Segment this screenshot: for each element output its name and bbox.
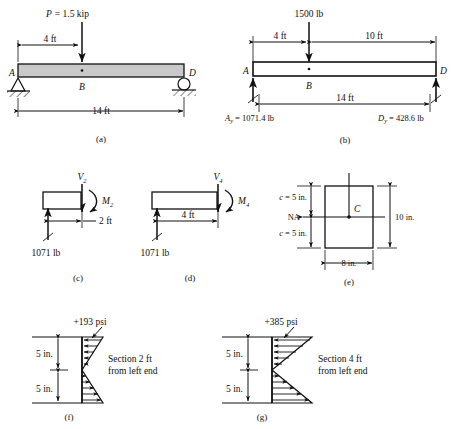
- panel-e-na-label: NA: [288, 212, 301, 222]
- figure-root: P= 1.5 kip 4 ft A B D 14 ft (a) 1500 lb: [0, 0, 453, 429]
- panel-b-dim4-label: 4 ft: [274, 31, 287, 41]
- panel-a-load-label: P= 1.5 kip: [45, 9, 89, 19]
- panel-c-shear-label: V2: [77, 172, 87, 184]
- panel-d-reaction-label: 1071 lb: [141, 248, 170, 258]
- panel-b-point-b-dot: [308, 68, 311, 71]
- panel-a-label-B: B: [79, 82, 85, 92]
- panel-g-section-caption-line2: from left end: [318, 366, 368, 376]
- panel-c-dim-label: 2 ft: [99, 216, 112, 226]
- panel-b-dim10-label: 10 ft: [365, 31, 383, 41]
- panel-a-label-D: D: [188, 68, 196, 78]
- panel-g-caption: (g): [257, 412, 268, 422]
- panel-f-bottom-stress-triangle: [82, 370, 103, 403]
- panel-a-caption: (a): [96, 134, 106, 144]
- panel-g: +385 psi 5 in. 5 in. Section 4 ft from l…: [222, 317, 368, 422]
- panel-c-moment-label: M2: [101, 196, 114, 208]
- panel-b-caption: (b): [340, 135, 351, 145]
- panel-c-caption: (c): [73, 273, 83, 283]
- panel-d-moment-arc: [225, 190, 233, 212]
- panel-g-section-caption-line1: Section 4 ft: [318, 354, 362, 364]
- panel-c-moment-arc: [89, 190, 97, 212]
- panel-a-label-A: A: [8, 68, 15, 78]
- panel-a-roller-support: [178, 78, 190, 90]
- panel-f-caption: (f): [65, 412, 74, 422]
- panel-b-reaction-d-label: Dy= 428.6 lb: [377, 113, 424, 124]
- panel-e-width-label: 8 in.: [341, 258, 356, 268]
- panel-g-dim-top-label: 5 in.: [226, 349, 243, 359]
- panel-e-centroid-label: C: [354, 204, 361, 214]
- panel-b-label-B: B: [306, 81, 312, 91]
- panel-d: V4 M4 4 ft 1071 lb (d): [141, 172, 250, 283]
- panel-e-caption: (e): [344, 277, 354, 287]
- panel-a-ground-hatch-left: [7, 91, 30, 97]
- panel-a-pin-support: [11, 78, 25, 91]
- panel-g-bottom-stress-triangle: [272, 370, 312, 403]
- panel-g-dim-bottom-label: 5 in.: [226, 384, 243, 394]
- panel-g-stress-label: +385 psi: [264, 317, 297, 327]
- panel-b-load-label: 1500 lb: [295, 9, 324, 19]
- panel-b: 1500 lb 4 ft 10 ft A B D 14 ft Ay= 1071.…: [224, 9, 447, 145]
- panel-b-dim14-label: 14 ft: [336, 93, 354, 103]
- panel-f-section-caption-line2: from left end: [108, 366, 158, 376]
- panel-b-label-D: D: [439, 66, 447, 76]
- panel-d-segment: [152, 192, 217, 209]
- panel-e-c-bottom-label: c= 5 in.: [279, 228, 307, 238]
- panel-d-dim-label: 4 ft: [182, 210, 195, 220]
- panel-e: C c= 5 in. c= 5 in. NA 10 in. 8 in. (e): [279, 173, 414, 287]
- panel-a: P= 1.5 kip 4 ft A B D 14 ft (a): [7, 9, 196, 144]
- panel-a-beam: [18, 64, 184, 77]
- panel-d-caption: (d): [185, 273, 196, 283]
- panel-g-top-stress-triangle: [272, 337, 312, 370]
- panel-e-centroid-dot: [347, 215, 351, 219]
- panel-g-stress-leader: [284, 327, 294, 338]
- panel-e-height-label: 10 in.: [395, 212, 414, 222]
- panel-e-c-top-label: c= 5 in.: [279, 192, 307, 202]
- panel-f-stress-label: +193 psi: [73, 317, 106, 327]
- panel-a-point-b-dot: [81, 69, 84, 72]
- panel-f-stress-leader: [92, 327, 102, 338]
- panel-f-dim-top-label: 5 in.: [36, 349, 53, 359]
- panel-d-moment-label: M4: [237, 196, 250, 208]
- panel-b-beam: [253, 62, 436, 76]
- panel-f-dim-bottom-label: 5 in.: [36, 384, 53, 394]
- engineering-figure-svg: P= 1.5 kip 4 ft A B D 14 ft (a) 1500 lb: [0, 0, 453, 429]
- panel-a-dim4-label: 4 ft: [44, 34, 57, 44]
- panel-c-reaction-label: 1071 lb: [32, 248, 61, 258]
- panel-a-ground-hatch-right: [172, 90, 196, 96]
- panel-a-dim14-label: 14 ft: [92, 106, 110, 116]
- panel-f-top-stress-triangle: [82, 337, 103, 370]
- panel-b-reaction-a-label: Ay= 1071.4 lb: [224, 113, 274, 124]
- panel-c: V2 M2 2 ft 1071 lb (c): [32, 172, 114, 283]
- panel-b-label-A: A: [242, 66, 249, 76]
- panel-f-section-caption-line1: Section 2 ft: [108, 354, 152, 364]
- panel-c-segment: [43, 192, 81, 209]
- panel-f: +193 psi 5 in. 5 in. Section 2 ft from l…: [32, 317, 158, 422]
- panel-d-shear-label: V4: [213, 172, 223, 184]
